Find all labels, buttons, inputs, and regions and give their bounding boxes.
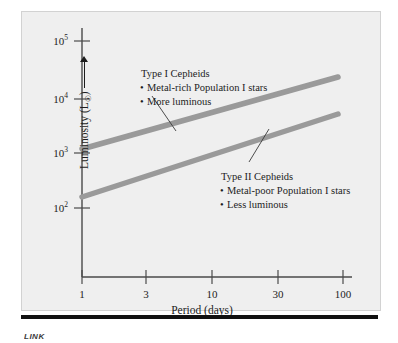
x-tick-label-3: 3	[143, 289, 149, 300]
annotation-type-ii: Type II Cepheids Metal-poor Population I…	[221, 170, 350, 212]
annotation-type-i: Type I Cepheids Metal-rich Population I …	[141, 67, 267, 109]
annotation-type-ii-title: Type II Cepheids	[221, 170, 350, 184]
annotation-type-ii-bullet-1: Metal-poor Population I stars	[221, 184, 350, 198]
x-tick-label-100: 100	[335, 289, 352, 300]
leader-type-ii	[249, 129, 269, 162]
link-artifact-text: LINK	[24, 332, 45, 341]
y-axis-title-group: Luminosity (L☉)	[75, 29, 93, 169]
x-tick-label-30: 30	[273, 289, 284, 300]
annotation-type-i-bullet-1: Metal-rich Population I stars	[141, 81, 267, 95]
annotation-type-i-title: Type I Cepheids	[141, 67, 267, 81]
annotation-type-i-bullet-2: More luminous	[141, 95, 267, 109]
y-axis-title: Luminosity (L☉)	[78, 91, 90, 169]
figure-panel: 105 104 103 102 1 3 10 30 100 Period (da…	[21, 11, 381, 311]
x-tick-label-1: 1	[79, 289, 85, 300]
up-arrow-icon	[80, 54, 89, 88]
x-tick-label-10: 10	[207, 289, 218, 300]
y-tick-label-1e5: 105	[32, 36, 68, 47]
y-tick-label-1e3: 103	[32, 148, 68, 159]
y-tick-label-1e2: 102	[32, 203, 68, 214]
annotation-type-ii-bullet-2: Less luminous	[221, 198, 350, 212]
bottom-divider	[21, 315, 378, 319]
y-tick-label-1e4: 104	[32, 94, 68, 105]
